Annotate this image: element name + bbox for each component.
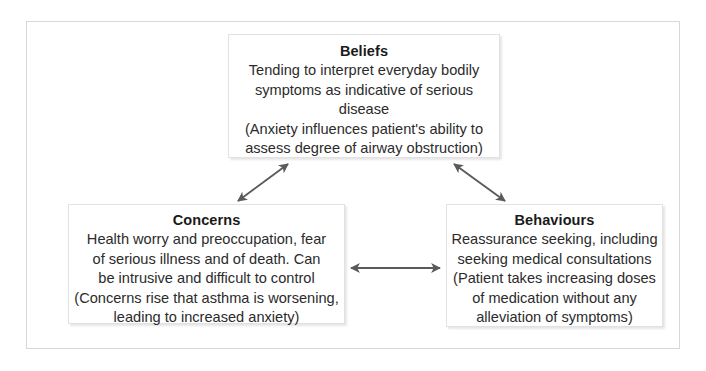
concept-box-concerns: Concerns Health worry and preoccupation,… (68, 204, 345, 324)
beliefs-title: Beliefs (229, 42, 499, 61)
diagram-canvas: Beliefs Tending to interpret everyday bo… (0, 0, 706, 371)
concerns-body: Health worry and preoccupation, fear of … (69, 230, 344, 328)
behaviours-title: Behaviours (447, 211, 662, 230)
concept-box-beliefs: Beliefs Tending to interpret everyday bo… (228, 34, 500, 158)
beliefs-body: Tending to interpret everyday bodily sym… (229, 61, 499, 159)
concept-box-behaviours: Behaviours Reassurance seeking, includin… (446, 204, 663, 327)
behaviours-body: Reassurance seeking, including seeking m… (447, 230, 662, 328)
concerns-title: Concerns (69, 211, 344, 230)
